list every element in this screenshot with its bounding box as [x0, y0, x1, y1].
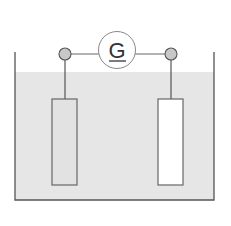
electrolyte	[15, 72, 214, 200]
left-terminal	[59, 48, 71, 60]
galvanometer-label: G	[108, 38, 125, 63]
diagram-canvas: G	[0, 0, 231, 226]
galvanometer: G	[99, 32, 136, 69]
right-electrode	[158, 99, 183, 185]
galvanic-cell-diagram: G	[0, 0, 231, 226]
left-electrode	[52, 99, 77, 185]
right-terminal	[165, 48, 177, 60]
